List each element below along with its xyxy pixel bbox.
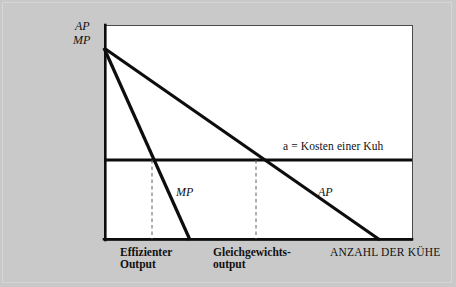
mp-curve-label: MP <box>176 186 193 199</box>
economics-diagram-figure: AP MP MP AP a = Kosten einer Kuh Effizie… <box>0 0 456 287</box>
equilibrium-output-caption-line1: Gleichgewichts- <box>213 246 291 258</box>
cost-line-annotation: a = Kosten einer Kuh <box>283 140 383 152</box>
y-axis-label-mp: MP <box>73 34 90 47</box>
y-axis-label-ap: AP <box>75 20 90 33</box>
x-axis-title: ANZAHL DER KÜHE <box>330 246 441 258</box>
equilibrium-output-caption-line2: output <box>213 258 291 270</box>
ap-curve-label: AP <box>318 186 333 199</box>
equilibrium-output-caption: Gleichgewichts- output <box>213 246 291 271</box>
efficient-output-caption-line1: Effizienter <box>120 246 172 258</box>
efficient-output-caption: Effizienter Output <box>120 246 172 271</box>
plot-graphics <box>0 0 456 287</box>
plot-panel-border <box>105 26 413 241</box>
efficient-output-caption-line2: Output <box>120 258 172 270</box>
